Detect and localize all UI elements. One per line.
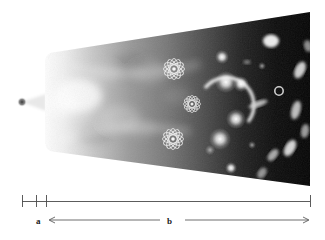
singularity-group <box>17 94 46 111</box>
figure-root: a b <box>0 0 325 240</box>
singularity-dot <box>17 97 27 107</box>
timeline-scale-bar <box>0 190 325 240</box>
expansion-cone-figure <box>0 0 325 196</box>
grain-overlay <box>0 0 325 196</box>
scale-label-a: a <box>36 216 41 226</box>
scale-label-b: b <box>167 216 172 226</box>
cone-contents <box>0 0 325 196</box>
cone-body <box>0 0 325 196</box>
segment-b-arrow <box>49 217 309 223</box>
